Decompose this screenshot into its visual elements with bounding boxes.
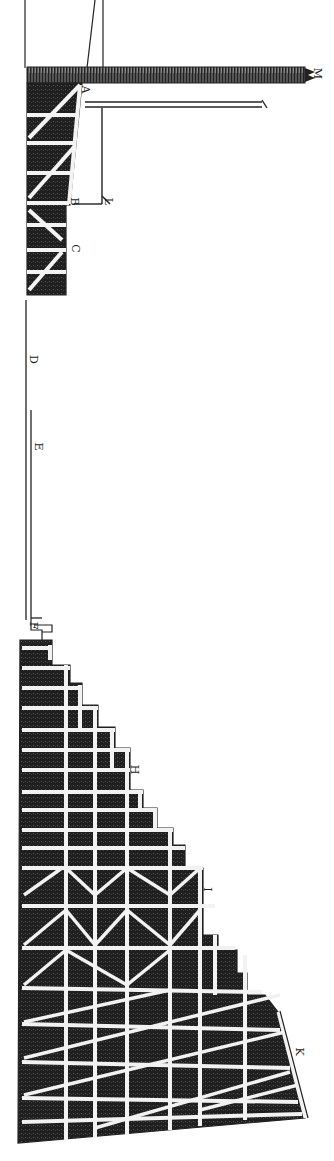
label-I: I: [202, 887, 213, 891]
label-B: B: [69, 197, 80, 205]
beam-M: [27, 67, 315, 83]
label-H: H: [129, 765, 140, 775]
label-F: F: [28, 622, 39, 630]
upper-frame-block: [27, 83, 82, 295]
label-E: E: [33, 442, 44, 450]
rod-L: [74, 100, 267, 204]
stepped-main-frame: [18, 618, 308, 1143]
baseline-D-E: [26, 300, 42, 620]
label-C: C: [70, 244, 81, 252]
label-M: M: [312, 68, 323, 79]
engraving-plate: [0, 0, 334, 1161]
label-D: D: [28, 355, 39, 364]
label-A: A: [80, 86, 91, 94]
top-guide-lines: [25, 0, 103, 68]
label-L: L: [103, 198, 114, 205]
label-K: K: [294, 1047, 305, 1055]
